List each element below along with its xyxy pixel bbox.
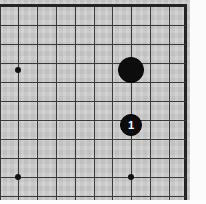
line-v-9 [169,4,170,204]
paper-margin-right [190,0,206,204]
line-v-6 [112,4,113,204]
black-stone-unnumbered[interactable] [118,57,144,83]
line-h-7 [0,139,186,140]
line-h-10 [0,196,186,197]
scan-edge-shadow-bottom [0,200,206,204]
go-board-diagram: 1 [0,0,206,204]
line-h-3 [0,63,186,64]
hoshi-left-lower [15,174,21,180]
line-h-4 [0,82,186,83]
line-v-2 [37,4,38,204]
line-h-8 [0,158,186,159]
line-h-1 [0,25,186,26]
line-h-edge-top [0,4,186,7]
line-h-2 [0,44,186,45]
line-v-edge-right [184,4,187,204]
line-h-6 [0,120,186,121]
line-h-5 [0,101,186,102]
black-stone-move-1-move-number: 1 [121,115,141,135]
hoshi-left-upper [15,67,21,73]
line-v-5 [94,4,95,204]
line-v-0 [0,4,1,204]
line-h-9 [0,177,186,178]
line-v-3 [56,4,57,204]
board-surface [0,0,190,204]
hoshi-center-lower [128,174,134,180]
black-stone-move-1[interactable]: 1 [120,114,142,136]
line-v-8 [150,4,151,204]
line-v-4 [75,4,76,204]
